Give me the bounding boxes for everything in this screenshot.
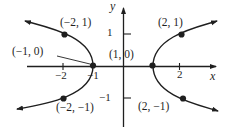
point-label-2-neg1: (2, −1)	[138, 101, 169, 113]
data-point-2-neg1	[180, 95, 186, 101]
data-point-neg1-0	[90, 62, 96, 68]
data-point-neg2-1	[61, 31, 67, 37]
point-label-neg1-0: (−1, 0)	[12, 46, 43, 58]
point-label-2-1: (2, 1)	[158, 17, 183, 29]
y-tick-label-neg1: −1	[99, 92, 111, 103]
x-tick-label-2: 2	[177, 69, 183, 80]
x-tick-label-neg2: −2	[55, 70, 67, 81]
hyperbola-graph-figure: y x 1 −1 −2 −1 2 (−2, 1) (2, 1) (−1, 0) …	[0, 0, 227, 132]
data-point-1-0	[149, 62, 155, 68]
point-label-neg2-neg1: (−2, −1)	[56, 102, 94, 114]
x-axis-label: x	[210, 70, 215, 82]
point-label-neg2-1: (−2, 1)	[60, 17, 91, 29]
data-point-2-1	[178, 31, 184, 37]
plot-canvas	[0, 0, 227, 132]
hyperbola-left-branch	[17, 21, 93, 109]
point-label-1-0: (1, 0)	[109, 49, 134, 61]
x-tick-label-neg1: −1	[87, 70, 99, 81]
y-tick-label-1: 1	[107, 27, 113, 38]
leader-line	[57, 56, 90, 64]
y-axis-label: y	[110, 0, 115, 12]
